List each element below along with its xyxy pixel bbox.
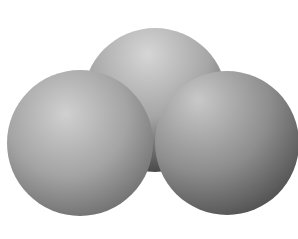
right-atom xyxy=(155,71,298,215)
left-atom xyxy=(7,70,153,216)
molecule-model: Space-filling model of a bent triatomic … xyxy=(0,0,298,239)
molecule-svg xyxy=(0,0,298,239)
